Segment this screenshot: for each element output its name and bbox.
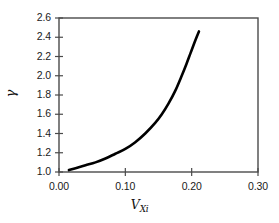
y-tick-label: 1.2 xyxy=(23,146,51,158)
chart-figure: 1.01.21.41.61.82.02.22.42.6 0.000.100.20… xyxy=(0,0,279,223)
y-tick-label: 1.0 xyxy=(23,165,51,177)
x-tick-label: 0.30 xyxy=(241,180,275,192)
y-tick-label: 2.2 xyxy=(23,50,51,62)
x-tick-label: 0.10 xyxy=(108,180,142,192)
x-axis-title-subscript: Xi xyxy=(140,204,149,214)
plot-frame xyxy=(59,18,258,172)
x-axis-title-base: V xyxy=(131,197,140,212)
x-tick-label: 0.00 xyxy=(42,180,76,192)
y-tick-label: 2.0 xyxy=(23,69,51,81)
y-tick-label: 1.6 xyxy=(23,107,51,119)
y-tick-label: 1.4 xyxy=(23,127,51,139)
y-tick-label: 2.6 xyxy=(23,11,51,23)
y-tick-label: 1.8 xyxy=(23,88,51,100)
y-tick-label: 2.4 xyxy=(23,30,51,42)
x-axis-title: VXi xyxy=(0,197,279,214)
x-tick-label: 0.20 xyxy=(175,180,209,192)
y-axis-title: γ xyxy=(3,76,18,112)
